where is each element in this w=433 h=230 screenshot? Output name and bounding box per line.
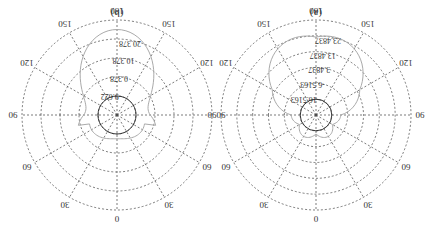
angle-tick-label: 30	[164, 200, 174, 210]
angle-tick-label: 90	[8, 110, 18, 120]
polar-chart-b: 0306090120150180150120906030-9.6220.3781…	[8, 6, 226, 224]
angle-tick-label: 150	[162, 19, 176, 29]
angle-tick-label: 60	[401, 162, 411, 172]
polar-chart-a: 0306090120150180150120906030-16.5163-6.5…	[207, 6, 425, 224]
radial-tick-label: 0.378	[110, 74, 128, 83]
angle-tick-label: 150	[361, 19, 375, 29]
angular-grid-spoke	[117, 68, 199, 116]
angular-grid-spoke	[316, 115, 364, 197]
polar-figure-svg: 0306090120150180150120906030-16.5163-6.5…	[0, 0, 433, 230]
radial-tick-label: -9.622	[101, 92, 122, 101]
angle-tick-label: 60	[221, 162, 231, 172]
radial-tick-label: 13.4837	[310, 50, 336, 59]
angular-grid-spoke	[70, 33, 118, 115]
radial-tick-label: 20.378	[119, 39, 141, 48]
angle-tick-label: 30	[259, 200, 269, 210]
angle-tick-label: 150	[257, 19, 271, 29]
angle-tick-label: 60	[202, 162, 212, 172]
angle-tick-label: 0	[313, 214, 318, 224]
angle-tick-label: 120	[20, 58, 34, 68]
angle-tick-label: 90	[415, 110, 425, 120]
angle-tick-label: 120	[200, 58, 214, 68]
angle-tick-label: 90	[216, 110, 226, 120]
angle-tick-label: 120	[219, 58, 233, 68]
angular-grid-spoke	[117, 115, 165, 197]
angle-tick-label: 150	[58, 19, 72, 29]
angle-tick-label: 0	[114, 214, 119, 224]
figure: 0306090120150180150120906030-16.5163-6.5…	[0, 0, 433, 230]
angle-tick-label: 60	[22, 162, 32, 172]
angular-grid-spoke	[117, 115, 199, 163]
radial-tick-label: -16.5163	[291, 95, 320, 104]
angle-tick-label: 30	[60, 200, 70, 210]
angle-tick-label: 120	[399, 58, 413, 68]
radial-tick-label: 10.378	[112, 56, 134, 65]
angle-tick-label: 30	[363, 200, 373, 210]
angular-grid-spoke	[70, 115, 118, 197]
radial-tick-label: 3.4837	[308, 65, 330, 74]
radial-tick-label: -6.5163	[300, 80, 325, 89]
angular-grid-spoke	[35, 115, 117, 163]
angular-grid-spoke	[35, 68, 117, 116]
panel-label-b: (b)	[110, 7, 123, 20]
panel-label-a: (a)	[310, 7, 323, 20]
